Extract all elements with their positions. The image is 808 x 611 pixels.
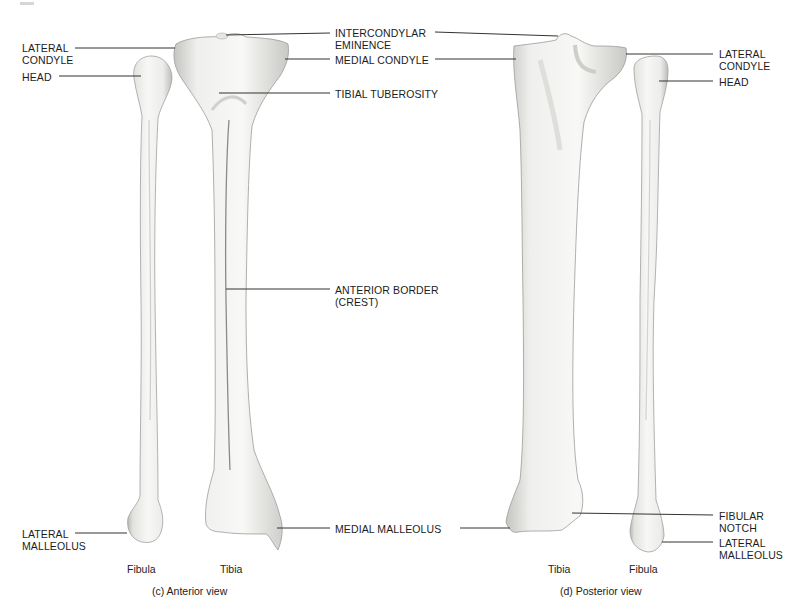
label-intercondylar-eminence: INTERCONDYLAR EMINENCE: [335, 27, 426, 51]
label-anterior-border: ANTERIOR BORDER (CREST): [335, 284, 439, 308]
label-head-anterior: HEAD: [22, 71, 52, 83]
label-medial-malleolus: MEDIAL MALLEOLUS: [335, 523, 441, 535]
tibia-anterior: [174, 33, 289, 550]
label-fibular-notch: FIBULAR NOTCH: [719, 510, 764, 534]
bone-name-fibula-anterior: Fibula: [127, 563, 156, 575]
page-edge-marks: [20, 2, 34, 5]
caption-posterior-view: (d) Posterior view: [560, 585, 642, 597]
label-lateral-malleolus-anterior: LATERAL MALLEOLUS: [22, 528, 86, 552]
label-medial-condyle: MEDIAL CONDYLE: [335, 54, 429, 66]
label-head-posterior: HEAD: [719, 76, 749, 88]
fibula-anterior: [128, 56, 172, 542]
tibia-fibula-figure: LATERAL CONDYLE HEAD INTERCONDYLAR EMINE…: [0, 0, 808, 611]
bone-name-tibia-anterior: Tibia: [220, 563, 242, 575]
tibia-posterior: [506, 34, 627, 533]
leader-intercondylar-eminence-right: [435, 32, 558, 36]
bone-name-fibula-posterior: Fibula: [629, 563, 658, 575]
label-lateral-malleolus-posterior: LATERAL MALLEOLUS: [719, 537, 783, 561]
caption-anterior-view: (c) Anterior view: [152, 585, 227, 597]
label-tibial-tuberosity: TIBIAL TUBEROSITY: [335, 88, 438, 100]
fibula-posterior: [630, 56, 668, 552]
leader-intercondylar-eminence-left: [226, 33, 330, 35]
label-lateral-condyle-anterior: LATERAL CONDYLE: [22, 42, 73, 66]
bone-name-tibia-posterior: Tibia: [548, 563, 570, 575]
label-lateral-condyle-posterior: LATERAL CONDYLE: [719, 48, 770, 72]
